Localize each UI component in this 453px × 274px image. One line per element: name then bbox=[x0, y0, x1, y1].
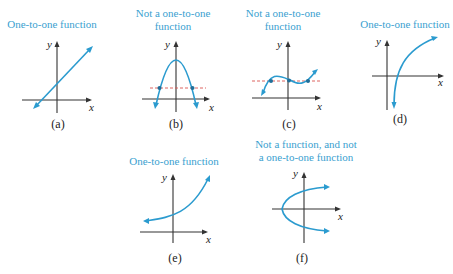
svg-text:x: x bbox=[316, 100, 322, 112]
svg-text:y: y bbox=[292, 167, 298, 179]
svg-text:y: y bbox=[161, 171, 167, 183]
panel-e-caption: (e) bbox=[163, 251, 187, 266]
y-axis-label: y bbox=[46, 38, 52, 50]
panel-f-caption: (f) bbox=[290, 251, 314, 266]
panel-d-caption: (d) bbox=[388, 112, 412, 127]
svg-text:x: x bbox=[437, 76, 443, 88]
svg-text:y: y bbox=[276, 38, 282, 50]
svg-text:x: x bbox=[205, 233, 211, 245]
graph-f: y x bbox=[250, 137, 400, 274]
svg-text:y: y bbox=[375, 35, 381, 47]
panel-c-caption: (c) bbox=[277, 117, 301, 132]
svg-text:x: x bbox=[208, 101, 214, 113]
x-axis-label: x bbox=[88, 101, 94, 113]
svg-text:x: x bbox=[337, 210, 343, 222]
panel-a-caption: (a) bbox=[46, 117, 70, 132]
panel-b-caption: (b) bbox=[164, 117, 188, 132]
svg-text:y: y bbox=[164, 38, 170, 50]
